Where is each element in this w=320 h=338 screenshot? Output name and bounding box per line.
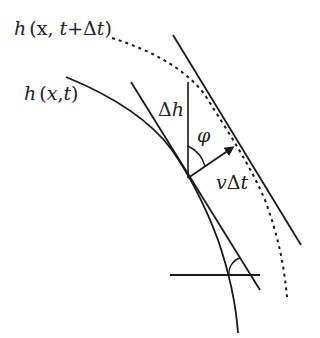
future-tangent-line bbox=[173, 35, 301, 245]
slope-angle-arc bbox=[229, 258, 240, 275]
phi-angle-arc bbox=[188, 146, 205, 166]
current-front-label: h(x,t) bbox=[24, 82, 79, 104]
interface-growth-diagram: h(x, t+Δt) h(x,t) Δh φ vΔt bbox=[0, 0, 320, 338]
height-change-label: Δh bbox=[158, 98, 184, 120]
future-front-label: h(x, t+Δt) bbox=[14, 17, 112, 39]
displacement-label: vΔt bbox=[216, 171, 248, 193]
angle-phi-label: φ bbox=[197, 124, 211, 146]
